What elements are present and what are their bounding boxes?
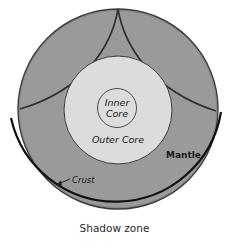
crust-label: Crust <box>72 175 95 185</box>
mantle-label: Mantle <box>166 150 201 160</box>
earth-interior-diagram: Inner Core Outer Core Mantle Crust <box>0 0 229 248</box>
shadow-zone-caption: Shadow zone <box>0 222 229 234</box>
inner-core-label-line1: Inner <box>105 97 131 108</box>
outer-core-label: Outer Core <box>92 134 144 145</box>
inner-core-label-line2: Core <box>106 108 128 119</box>
